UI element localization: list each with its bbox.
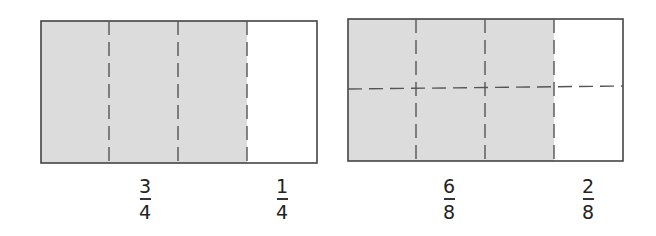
numerator: 6 bbox=[434, 176, 464, 196]
numerator: 3 bbox=[130, 176, 160, 196]
denominator: 8 bbox=[573, 202, 603, 222]
shaded-region bbox=[348, 19, 554, 161]
shaded-region bbox=[41, 21, 247, 163]
quarters-model bbox=[41, 21, 317, 163]
numerator: 1 bbox=[267, 176, 297, 196]
eighths-model bbox=[348, 19, 623, 161]
fraction-bar bbox=[583, 198, 594, 200]
denominator: 8 bbox=[434, 202, 464, 222]
fraction-bar bbox=[277, 198, 288, 200]
fraction-label-unshaded-right: 2 8 bbox=[573, 176, 603, 222]
denominator: 4 bbox=[267, 202, 297, 222]
fraction-label-shaded-right: 6 8 bbox=[434, 176, 464, 222]
fraction-diagrams bbox=[0, 0, 656, 236]
denominator: 4 bbox=[130, 202, 160, 222]
fraction-bar bbox=[140, 198, 151, 200]
fraction-bar bbox=[444, 198, 455, 200]
numerator: 2 bbox=[573, 176, 603, 196]
fraction-label-shaded-left: 3 4 bbox=[130, 176, 160, 222]
fraction-label-unshaded-left: 1 4 bbox=[267, 176, 297, 222]
